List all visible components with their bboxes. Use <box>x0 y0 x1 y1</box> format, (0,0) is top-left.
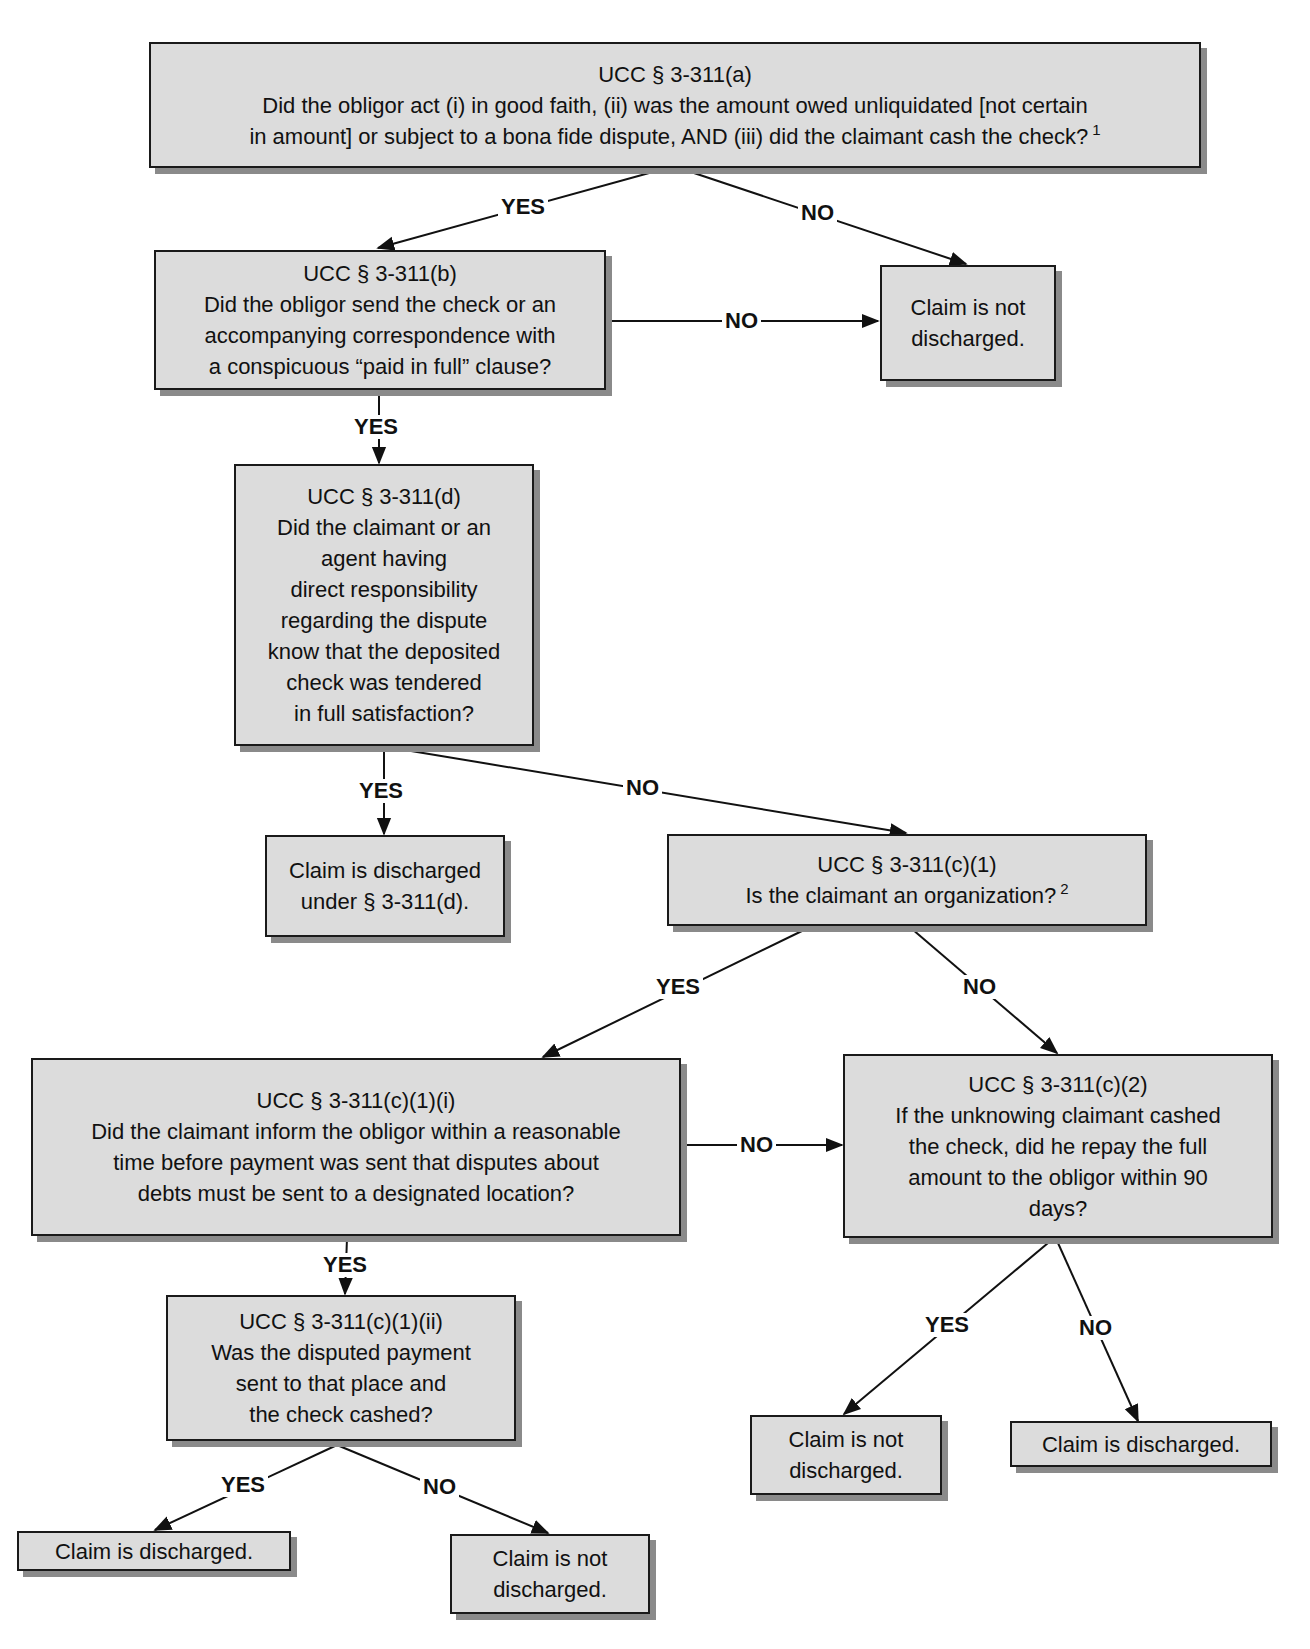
node-text-line: know that the deposited <box>268 636 500 667</box>
node-text-line: If the unknowing claimant cashed <box>895 1100 1220 1131</box>
node-ucc-3-311b: UCC § 3-311(b) Did the obligor send the … <box>154 250 606 390</box>
node-claim-not-discharged-1: Claim is not discharged. <box>880 265 1056 381</box>
node-claim-discharged-3: Claim is discharged. <box>17 1531 291 1571</box>
edge-label-a-nd1-no: NO <box>798 201 837 225</box>
node-text-line: discharged. <box>911 323 1025 354</box>
node-text-line: discharged. <box>493 1574 607 1605</box>
node-text-line: time before payment was sent that disput… <box>113 1147 599 1178</box>
node-text-line: the check cashed? <box>249 1399 432 1430</box>
node-ucc-3-311c2: UCC § 3-311(c)(2) If the unknowing claim… <box>843 1054 1273 1238</box>
node-claim-discharged-2: Claim is discharged. <box>1010 1421 1272 1467</box>
node-ucc-3-311c1: UCC § 3-311(c)(1) Is the claimant an org… <box>667 834 1147 926</box>
node-text-line: Did the obligor send the check or an <box>204 289 556 320</box>
edge-label-c1-c2-no: NO <box>960 975 999 999</box>
node-text-line: in full satisfaction? <box>294 698 474 729</box>
edge-label-d-c1-no: NO <box>623 776 662 800</box>
flowchart-canvas: UCC § 3-311(a) Did the obligor act (i) i… <box>0 0 1310 1649</box>
node-title: UCC § 3-311(b) <box>303 258 457 289</box>
edge-label-c1-c1i-yes: YES <box>653 975 703 999</box>
node-text-line: debts must be sent to a designated locat… <box>138 1178 575 1209</box>
node-title: UCC § 3-311(a) <box>598 59 752 90</box>
edge-label-c1i-c1ii-yes: YES <box>320 1253 370 1277</box>
edge-label-c1ii-nd3-no: NO <box>420 1475 459 1499</box>
node-text-line: check was tendered <box>286 667 482 698</box>
node-text-line: Claim is discharged. <box>55 1536 253 1567</box>
edge-label-c1i-c2-no: NO <box>737 1133 776 1157</box>
node-text-line: Did the claimant or an <box>277 512 491 543</box>
edge-label-c1ii-d3-yes: YES <box>218 1473 268 1497</box>
node-text-line: Did the obligor act (i) in good faith, (… <box>262 90 1087 121</box>
node-text-line: days? <box>1029 1193 1088 1224</box>
node-text-line: Claim is not <box>493 1543 608 1574</box>
node-text-line: Claim is not <box>789 1424 904 1455</box>
node-ucc-3-311d: UCC § 3-311(d) Did the claimant or an ag… <box>234 464 534 746</box>
node-text-line: accompanying correspondence with <box>205 320 556 351</box>
edge-label-d-dd-yes: YES <box>356 779 406 803</box>
node-title: UCC § 3-311(c)(1) <box>817 849 996 880</box>
node-text-line: the check, did he repay the full <box>909 1131 1207 1162</box>
node-text-line: amount to the obligor within 90 <box>908 1162 1208 1193</box>
node-claim-not-discharged-2: Claim is not discharged. <box>750 1415 942 1495</box>
node-text-line: Claim is not <box>911 292 1026 323</box>
node-title: UCC § 3-311(c)(1)(ii) <box>239 1306 443 1337</box>
node-text-line: Did the claimant inform the obligor with… <box>91 1116 621 1147</box>
edge-label-b-d-yes: YES <box>351 415 401 439</box>
node-ucc-3-311a: UCC § 3-311(a) Did the obligor act (i) i… <box>149 42 1201 168</box>
node-text-line: under § 3-311(d). <box>301 886 469 917</box>
node-text-line: Was the disputed payment <box>211 1337 471 1368</box>
node-text-line: regarding the dispute <box>281 605 488 636</box>
node-claim-not-discharged-3: Claim is not discharged. <box>450 1534 650 1614</box>
node-title: UCC § 3-311(c)(2) <box>968 1069 1147 1100</box>
node-text-line: sent to that place and <box>236 1368 446 1399</box>
node-text-line: Claim is discharged <box>289 855 481 886</box>
footnote-marker: 2 <box>1060 880 1068 897</box>
edge-label-c2-d2-no: NO <box>1076 1316 1115 1340</box>
node-title: UCC § 3-311(c)(1)(i) <box>257 1085 456 1116</box>
node-text-line: direct responsibility <box>290 574 477 605</box>
node-ucc-3-311c1ii: UCC § 3-311(c)(1)(ii) Was the disputed p… <box>166 1295 516 1441</box>
node-claim-discharged-under-d: Claim is discharged under § 3-311(d). <box>265 835 505 937</box>
node-ucc-3-311c1i: UCC § 3-311(c)(1)(i) Did the claimant in… <box>31 1058 681 1236</box>
node-title: UCC § 3-311(d) <box>307 481 461 512</box>
node-text-line: agent having <box>321 543 447 574</box>
node-text-line: discharged. <box>789 1455 903 1486</box>
edge-label-a-b-yes: YES <box>498 195 548 219</box>
footnote-marker: 1 <box>1092 121 1100 138</box>
node-text-line: Is the claimant an organization?2 <box>746 880 1069 911</box>
edge-label-c2-nd2-yes: YES <box>922 1313 972 1337</box>
node-text-line: a conspicuous “paid in full” clause? <box>209 351 551 382</box>
node-text-line: Claim is discharged. <box>1042 1429 1240 1460</box>
edge-label-b-nd1-no: NO <box>722 309 761 333</box>
node-text-line: in amount] or subject to a bona fide dis… <box>249 121 1100 152</box>
